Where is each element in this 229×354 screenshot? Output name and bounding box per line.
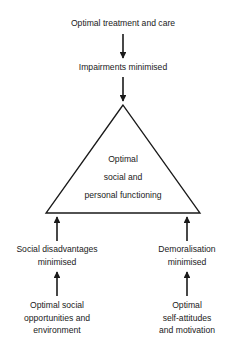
label-optimal-treatment: Optimal treatment and care: [0, 17, 229, 30]
label-line: environment: [0, 324, 114, 337]
label-line: Optimal: [0, 150, 229, 168]
label-optimal-functioning: Optimal social and personal functioning: [0, 150, 229, 204]
label-line: opportunities and: [0, 312, 114, 325]
label-demoralisation: Demoralisation minimised: [140, 243, 229, 268]
label-line: social and: [0, 168, 229, 186]
label-line: minimised: [0, 256, 114, 269]
label-optimal-social-opportunities: Optimal social opportunities and environ…: [0, 299, 114, 337]
label-line: minimised: [140, 256, 229, 269]
label-line: Social disadvantages: [0, 243, 114, 256]
label-text: Optimal treatment and care: [0, 17, 229, 30]
label-line: Optimal: [140, 299, 229, 312]
label-text: Impairments minimised: [0, 61, 229, 74]
label-line: Demoralisation: [140, 243, 229, 256]
label-line: personal functioning: [0, 186, 229, 204]
label-impairments-minimised: Impairments minimised: [0, 61, 229, 74]
label-line: Optimal social: [0, 299, 114, 312]
label-line: and motivation: [140, 324, 229, 337]
label-line: self-attitudes: [140, 312, 229, 325]
label-social-disadvantages: Social disadvantages minimised: [0, 243, 114, 268]
label-optimal-self-attitudes: Optimal self-attitudes and motivation: [140, 299, 229, 337]
